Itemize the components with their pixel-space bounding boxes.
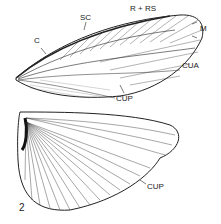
wing-figure: C SC R + RS M CUA CUP CUP 2 [0, 0, 221, 224]
label-leader-lines [41, 22, 197, 93]
label-c: C [34, 37, 40, 45]
forewing [16, 15, 203, 98]
label-cua: CUA [182, 62, 199, 70]
label-sc: SC [80, 14, 91, 22]
label-r-rs: R + RS [130, 5, 156, 13]
figure-number: 2 [19, 203, 25, 213]
wing-drawing [0, 0, 221, 224]
label-m: M [200, 25, 207, 33]
hindwing [18, 112, 179, 210]
label-cup-forewing: CUP [116, 95, 133, 103]
label-cup-hindwing: CUP [147, 183, 164, 191]
